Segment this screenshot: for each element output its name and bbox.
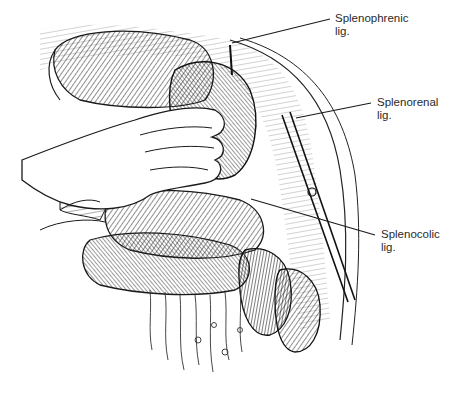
label-splenocolic-ligament: Splenocolic lig. bbox=[381, 228, 440, 254]
surgical-drawing bbox=[0, 0, 453, 403]
anatomical-illustration: Splenophrenic lig. Splenorenal lig. Sple… bbox=[0, 0, 453, 403]
label-splenorenal-ligament: Splenorenal lig. bbox=[377, 96, 438, 122]
omentum-strands bbox=[150, 290, 243, 372]
label-line: Splenocolic bbox=[381, 228, 440, 241]
label-line: Splenorenal bbox=[377, 96, 438, 109]
label-line: Splenophrenic bbox=[335, 12, 409, 25]
label-line: lig. bbox=[377, 109, 438, 122]
leader-splenorenal bbox=[296, 103, 371, 118]
leader-splenophrenic bbox=[232, 19, 330, 43]
label-line: lig. bbox=[381, 241, 440, 254]
label-line: lig. bbox=[335, 25, 409, 38]
colon-loops bbox=[60, 191, 320, 352]
label-splenophrenic-ligament: Splenophrenic lig. bbox=[335, 12, 409, 38]
